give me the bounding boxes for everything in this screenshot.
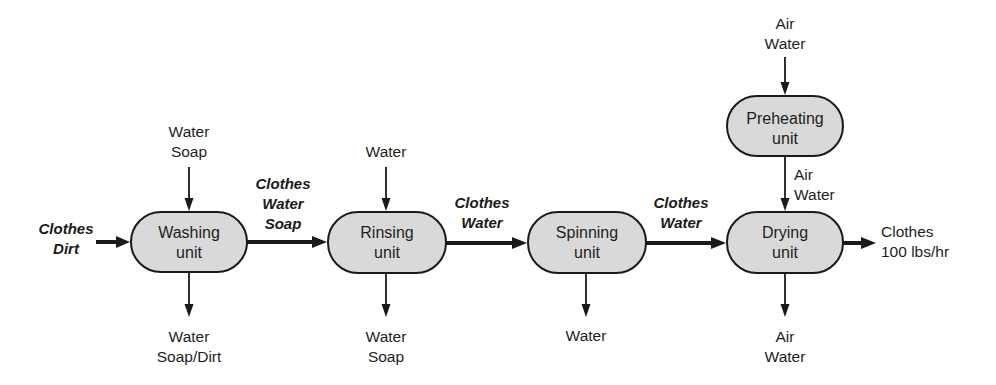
arrowhead-icon — [312, 236, 327, 248]
preheating-unit: Air Water Preheating unit Air Water — [727, 15, 843, 211]
spinning-unit-box — [528, 212, 646, 273]
main-feed-label-line2: Dirt — [53, 240, 80, 257]
preheating-input-label-line1: Air — [776, 15, 795, 32]
rinsing-unit-box — [328, 212, 446, 273]
arrowhead-icon — [781, 82, 790, 95]
stream-label-line1: Clothes — [653, 194, 708, 211]
rinsing-unit-label-line2: unit — [374, 244, 400, 261]
arrowhead-icon — [512, 237, 527, 249]
preheating-output-label-line1: Air — [794, 166, 813, 183]
arrowhead-icon — [382, 198, 391, 211]
spinning-unit: Spinning unit Water — [528, 212, 646, 344]
arrowhead-icon — [861, 237, 876, 249]
washing-unit-label-line2: unit — [176, 244, 202, 261]
stream-washing-to-rinsing: Clothes Water Soap — [247, 175, 327, 248]
stream-rinsing-to-spinning: Clothes Water — [446, 194, 527, 249]
spinning-unit-label-line1: Spinning — [556, 224, 618, 241]
final-output-label-line1: Clothes — [881, 223, 934, 240]
arrowhead-icon — [582, 304, 591, 317]
final-product-output: Clothes 100 lbs/hr — [843, 223, 949, 260]
rinsing-input-label: Water — [366, 143, 407, 160]
arrowhead-icon — [185, 198, 194, 211]
drying-unit-label-line1: Drying — [762, 224, 808, 241]
washing-unit-label-line1: Washing — [158, 224, 220, 241]
stream-spinning-to-drying: Clothes Water — [646, 194, 726, 249]
arrowhead-icon — [116, 236, 130, 248]
spinning-output-label: Water — [566, 327, 607, 344]
washing-input-label-line2: Soap — [171, 143, 207, 160]
washing-output-label-line2: Soap/Dirt — [157, 348, 222, 365]
arrowhead-icon — [781, 304, 790, 317]
drying-unit-box — [727, 212, 843, 273]
stream-label-line1: Clothes — [255, 175, 310, 192]
rinsing-output-label-line2: Soap — [368, 348, 404, 365]
arrowhead-icon — [185, 304, 194, 317]
final-output-label-line2: 100 lbs/hr — [881, 243, 949, 260]
rinsing-unit: Water Rinsing unit Water Soap — [328, 143, 446, 365]
washing-unit-box — [131, 212, 247, 272]
washing-input-label-line1: Water — [169, 123, 210, 140]
arrowhead-icon — [781, 198, 790, 211]
arrowhead-icon — [382, 304, 391, 317]
washing-unit: Water Soap Washing unit Water Soap/Dirt — [131, 123, 247, 365]
stream-label-line2: Water — [262, 195, 305, 212]
preheating-unit-label-line2: unit — [772, 130, 798, 147]
drying-unit-label-line2: unit — [772, 244, 798, 261]
preheating-unit-label-line1: Preheating — [746, 110, 823, 127]
drying-unit: Drying unit Air Water — [727, 212, 843, 365]
spinning-unit-label-line2: unit — [574, 244, 600, 261]
stream-label-line3: Soap — [265, 215, 302, 232]
stream-label-line2: Water — [461, 214, 504, 231]
preheating-output-label-line2: Water — [794, 186, 835, 203]
main-feed-input: Clothes Dirt — [38, 220, 130, 257]
flow-diagram: Clothes Dirt Water Soap Washing unit Wat… — [0, 0, 996, 385]
rinsing-unit-label-line1: Rinsing — [360, 224, 413, 241]
preheating-input-label-line2: Water — [765, 35, 806, 52]
arrowhead-icon — [711, 237, 726, 249]
stream-label-line2: Water — [660, 214, 703, 231]
drying-output-label-line1: Air — [776, 328, 795, 345]
stream-label-line1: Clothes — [454, 194, 509, 211]
washing-output-label-line1: Water — [169, 328, 210, 345]
main-feed-label-line1: Clothes — [38, 220, 93, 237]
rinsing-output-label-line1: Water — [366, 328, 407, 345]
drying-output-label-line2: Water — [765, 348, 806, 365]
